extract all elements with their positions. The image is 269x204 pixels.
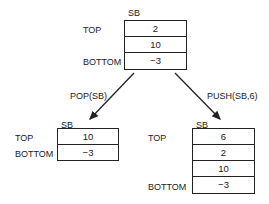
pop-stack: 10 −3 <box>57 128 119 161</box>
stack-cell: 10 <box>58 129 118 145</box>
initial-stack: 2 10 −3 <box>124 20 187 70</box>
pop-operation-label: POP(SB) <box>70 91 107 101</box>
stack-cell: −3 <box>125 53 186 69</box>
pop-top-label: TOP <box>15 133 33 143</box>
initial-stack-name: SB <box>128 8 140 18</box>
stack-cell: −3 <box>193 177 254 193</box>
pop-bottom-label: BOTTOM <box>15 149 53 159</box>
initial-bottom-label: BOTTOM <box>83 57 121 67</box>
stack-cell: −3 <box>58 145 118 161</box>
stack-cell: 6 <box>193 129 254 145</box>
push-top-label: TOP <box>148 133 166 143</box>
push-operation-label: PUSH(SB,6) <box>207 91 258 101</box>
push-bottom-label: BOTTOM <box>148 182 186 192</box>
push-stack: 6 2 10 −3 <box>192 128 255 194</box>
stack-cell: 2 <box>125 21 186 37</box>
stack-cell: 10 <box>193 161 254 177</box>
stack-cell: 2 <box>193 145 254 161</box>
stack-cell: 10 <box>125 37 186 53</box>
initial-top-label: TOP <box>83 25 101 35</box>
